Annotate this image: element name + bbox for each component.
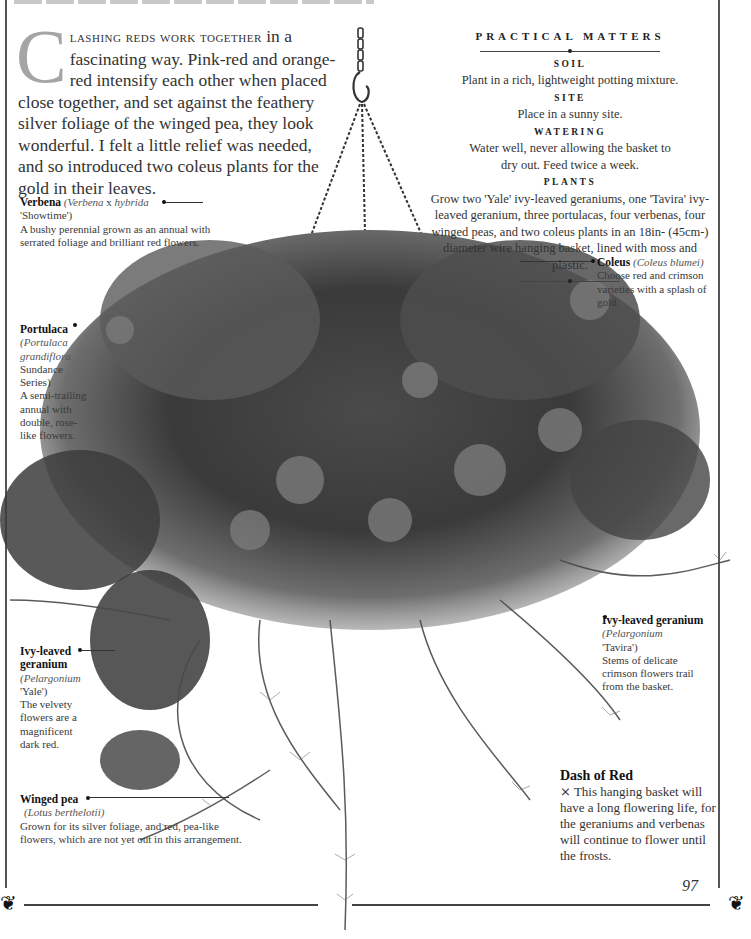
caption-coleus: Coleus (Coleus blumei) Choose red and cr…: [597, 256, 712, 309]
caption-desc: A semi-trailing annual with double, rose…: [20, 389, 86, 441]
caption-verbena: Verbena (Verbena x hybrida 'Showtime') A…: [20, 196, 220, 249]
caption-latin: (Lotus berthelotii): [24, 806, 104, 818]
caption-desc: Choose red and crimson varieties with a …: [597, 269, 706, 308]
plants-heading: PLANTS: [420, 174, 720, 191]
dropcap: C: [16, 26, 67, 88]
caption-latin: (Pelargonium: [20, 672, 81, 684]
intro-paragraph: Clashing reds work together in a fascina…: [18, 26, 338, 199]
caption-ivy-geranium-tavira: Ivy-leaved geranium (Pelargonium 'Tavira…: [602, 614, 714, 694]
practical-matters-title: PRACTICAL MATTERS: [420, 28, 720, 45]
caption-desc: The velvety flowers are a magnificent da…: [20, 698, 77, 750]
divider: [480, 47, 660, 55]
caption-ivy-geranium-yale: Ivy-leaved geranium (Pelargonium 'Yale')…: [20, 645, 88, 751]
caption-portulaca: Portulaca (Portulaca grandiflora Sundanc…: [20, 323, 90, 443]
caption-title: Portulaca: [20, 323, 68, 335]
caption-latin-2: hybrida: [115, 196, 149, 208]
caption-latin: (Verbena: [64, 196, 104, 208]
leader-line: [81, 650, 115, 651]
leader-dot: [603, 615, 607, 619]
caption-latin: (Coleus blumei): [633, 256, 704, 268]
caption-title: Verbena: [20, 196, 61, 208]
leader-line: [520, 261, 591, 262]
caption-title: Coleus: [597, 256, 630, 268]
intro-lead: lashing reds work together: [70, 29, 262, 45]
caption-latin: (Pelargonium: [602, 627, 663, 639]
corner-ornament-left-icon: ❦: [0, 893, 17, 913]
leader-dot: [73, 323, 77, 327]
page-number: 97: [682, 877, 698, 895]
dash-of-red-body: ⨯ This hanging basket will have a long f…: [560, 784, 720, 864]
site-heading: SITE: [420, 90, 720, 107]
soil-heading: SOIL: [420, 56, 720, 73]
caption-desc: Stems of delicate crimson flowers trail …: [602, 654, 694, 693]
caption-cultivar: Sundance Series): [20, 363, 63, 388]
frame-bottom-rule-right: [352, 904, 710, 906]
caption-cultivar: 'Yale'): [20, 685, 47, 697]
caption-latin-x: x: [106, 196, 112, 208]
corner-ornament-right-icon: ❦: [728, 893, 745, 913]
leader-dot: [591, 259, 595, 263]
caption-title: Winged pea: [20, 793, 78, 805]
x-mark-icon: ⨯: [560, 784, 571, 799]
leader-line: [89, 797, 229, 798]
caption-winged-pea: Winged pea (Lotus berthelotii) Grown for…: [20, 793, 250, 846]
practical-matters-panel: PRACTICAL MATTERS SOIL Plant in a rich, …: [420, 28, 720, 285]
caption-desc: Grown for its silver foliage, and red, p…: [20, 820, 242, 845]
caption-title: Ivy-leaved geranium: [602, 614, 703, 626]
caption-cultivar: 'Tavira'): [602, 641, 638, 653]
dash-of-red-box: Dash of Red ⨯ This hanging basket will h…: [560, 768, 720, 864]
site-text: Place in a sunny site.: [420, 106, 720, 123]
caption-desc: A bushy perennial grown as an annual wit…: [20, 223, 210, 248]
watering-heading: WATERING: [420, 124, 720, 141]
watering-text: Water well, never allowing the basket to…: [420, 140, 720, 173]
soil-text: Plant in a rich, lightweight potting mix…: [420, 72, 720, 89]
leader-line: [165, 202, 203, 203]
caption-cultivar: 'Showtime'): [20, 209, 72, 221]
caption-title: Ivy-leaved geranium: [20, 645, 71, 670]
frame-bottom-rule-left: [24, 904, 318, 906]
page-title-cropped: [14, 0, 374, 4]
caption-latin: (Portulaca grandiflora: [20, 336, 71, 361]
dash-of-red-title: Dash of Red: [560, 768, 720, 784]
frame-left-rule: [5, 0, 7, 888]
dash-of-red-text: This hanging basket will have a long flo…: [560, 784, 716, 863]
